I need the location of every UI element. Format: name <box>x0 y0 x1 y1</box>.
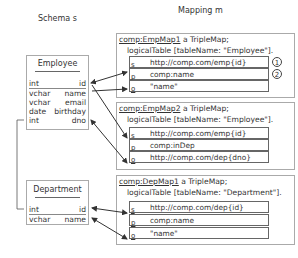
arrow-dep-id-to-depmap1-s <box>92 208 127 213</box>
foreign-key-line <box>17 120 24 209</box>
arrow-id-to-empmap1-s <box>91 72 127 83</box>
arrow-dep-name-to-depmap1-o <box>92 218 127 239</box>
connector-layer <box>0 0 298 258</box>
arrow-dno-to-empmap2-o <box>91 120 127 163</box>
arrow-name-to-empmap1-o <box>92 89 127 91</box>
arrow-id-to-empmap2-s <box>92 85 127 138</box>
